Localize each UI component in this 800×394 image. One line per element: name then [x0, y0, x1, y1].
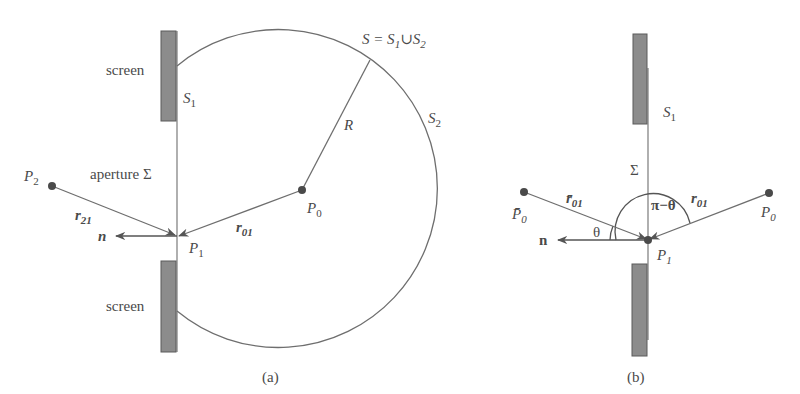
s2-label: S2: [428, 110, 441, 129]
panel-b: S1 Σ P̄0 P0 P1 r̄01 r01 θ π−θ n (b): [511, 34, 776, 386]
s1-label: S1: [183, 90, 196, 109]
normal-label-b: n: [539, 232, 548, 248]
point-p0: [298, 186, 306, 194]
screen-top: [161, 31, 176, 121]
radius-label: R: [343, 117, 353, 133]
screen-bottom: [161, 261, 176, 352]
r01-bar-label: r̄01: [566, 190, 583, 209]
p1-label-b: P1: [656, 247, 672, 266]
surface-equation: S = S1∪S2: [362, 31, 426, 50]
p0-label-b: P0: [760, 204, 776, 223]
point-p2: [48, 182, 56, 190]
p2-label: P2: [23, 168, 39, 187]
point-p1-b: [644, 236, 652, 244]
r01-label: r01: [236, 219, 253, 238]
screen-bottom-label: screen: [106, 298, 145, 314]
diffraction-geometry-figure: screen screen aperture Σ S1 S2 S = S1∪S2…: [0, 0, 800, 394]
sigma-label-b: Σ: [630, 162, 639, 178]
p0-bar-label: P̄0: [511, 206, 527, 225]
radius-line: [302, 60, 370, 190]
r21-label: r21: [75, 207, 92, 226]
surface-s2-arc: [177, 30, 437, 348]
point-p0-b: [765, 189, 773, 197]
pi-minus-theta-label: π−θ: [651, 197, 676, 213]
aperture-label: aperture Σ: [90, 166, 152, 182]
s1-label-b: S1: [663, 104, 676, 123]
point-p0-bar: [520, 188, 528, 196]
normal-label: n: [98, 228, 106, 244]
r01-label-b: r01: [691, 190, 708, 209]
theta-label: θ: [593, 224, 600, 240]
screen-top-b: [633, 34, 647, 124]
theta-arc: [610, 226, 613, 240]
screen-bottom-b: [632, 264, 647, 356]
r21-vector: [52, 186, 175, 235]
screen-top-label: screen: [106, 62, 145, 78]
caption-b: (b): [627, 369, 645, 386]
panel-a: screen screen aperture Σ S1 S2 S = S1∪S2…: [23, 30, 441, 387]
p1-label: P1: [188, 240, 204, 259]
caption-a: (a): [262, 369, 279, 386]
p0-label: P0: [306, 200, 322, 219]
